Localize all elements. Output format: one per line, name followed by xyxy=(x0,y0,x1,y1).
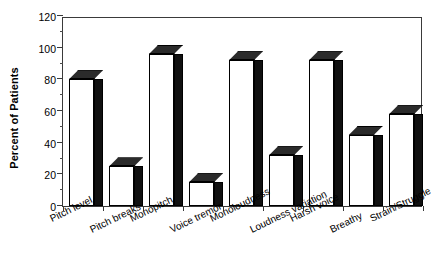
y-axis-title: Percent of Patients xyxy=(8,48,20,188)
x-tick-start-3 xyxy=(183,206,184,211)
bar-face xyxy=(229,60,254,206)
y-minor-tick-10 xyxy=(60,189,64,190)
bar-top xyxy=(389,105,423,114)
y-tick-40 xyxy=(57,142,63,143)
bar xyxy=(149,45,174,206)
bar-side xyxy=(94,79,103,206)
bar xyxy=(349,126,374,206)
bar-face xyxy=(189,182,214,206)
y-tick-label-20: 20 xyxy=(16,169,56,181)
x-tick-8 xyxy=(423,206,424,211)
x-tick-start-1 xyxy=(103,206,104,211)
y-minor-tick-70 xyxy=(60,94,64,95)
y-tick-label-100: 100 xyxy=(16,43,56,55)
bar-side xyxy=(374,135,383,206)
y-minor-tick-110 xyxy=(60,31,64,32)
bar-face xyxy=(269,155,294,206)
plot-area xyxy=(62,17,422,207)
chart-figure: Percent of Patients 020406080100120 Pitc… xyxy=(0,0,442,264)
bar-side xyxy=(254,60,263,206)
bar-top xyxy=(189,173,223,182)
y-tick-label-40: 40 xyxy=(16,138,56,150)
bar-top xyxy=(109,157,143,166)
bar-face xyxy=(309,60,334,206)
x-label-breathy: Breathy xyxy=(328,210,364,235)
bar-top xyxy=(309,51,343,60)
bar-top xyxy=(69,70,103,79)
bar-side xyxy=(334,60,343,206)
y-tick-label-60: 60 xyxy=(16,106,56,118)
bar xyxy=(109,157,134,206)
y-minor-tick-90 xyxy=(60,63,64,64)
bar-face xyxy=(69,79,94,206)
bar-face xyxy=(149,54,174,206)
bar-face xyxy=(109,166,134,206)
x-tick-start-5 xyxy=(263,206,264,211)
y-tick-80 xyxy=(57,78,63,79)
y-minor-tick-30 xyxy=(60,158,64,159)
bar-top xyxy=(349,126,383,135)
bar xyxy=(269,146,294,206)
y-tick-120 xyxy=(57,15,63,16)
bar xyxy=(189,173,214,206)
y-tick-20 xyxy=(57,173,63,174)
x-tick-start-7 xyxy=(343,206,344,211)
bar-face xyxy=(349,135,374,206)
bar-top xyxy=(269,146,303,155)
bar xyxy=(389,105,414,206)
bar-top xyxy=(149,45,183,54)
y-tick-label-0: 0 xyxy=(16,201,56,213)
y-tick-60 xyxy=(57,110,63,111)
bar-side xyxy=(134,166,143,206)
y-tick-100 xyxy=(57,47,63,48)
y-tick-label-80: 80 xyxy=(16,74,56,86)
bar-side xyxy=(174,54,183,206)
bar xyxy=(69,70,94,206)
y-minor-tick-50 xyxy=(60,126,64,127)
y-tick-label-120: 120 xyxy=(16,11,56,23)
bar xyxy=(309,51,334,206)
bar xyxy=(229,51,254,206)
bar-top xyxy=(229,51,263,60)
